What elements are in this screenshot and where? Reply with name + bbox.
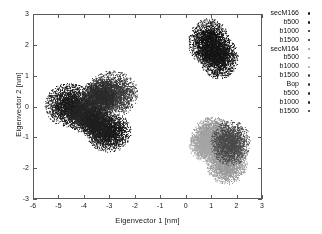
figure-canvas: -6-5-4-3-2-10123 -3-2-10123 Eigenvector … <box>0 0 322 234</box>
x-tick-label: 2 <box>226 202 248 210</box>
legend-item-label: b500 <box>283 53 302 62</box>
y-tick-mark <box>33 76 37 77</box>
legend-marker-cell <box>302 80 320 89</box>
y-tick-mark <box>258 137 262 138</box>
legend-item-label: b500 <box>283 18 302 27</box>
y-tick-mark <box>33 168 37 169</box>
x-tick-label: -4 <box>73 202 95 210</box>
x-tick-label: 1 <box>200 202 222 210</box>
legend-item[interactable]: secM164 <box>258 45 320 54</box>
legend-marker-cell <box>302 45 320 54</box>
legend-marker-dot-icon <box>308 48 310 50</box>
scatter-data-layer <box>34 15 261 198</box>
y-tick-label: 3 <box>7 10 29 18</box>
y-axis-title: Eigenvector 2 [nm] <box>14 45 23 165</box>
x-tick-label: -2 <box>124 202 146 210</box>
x-tick-mark <box>211 14 212 18</box>
x-tick-mark <box>186 195 187 199</box>
y-tick-mark <box>258 199 262 200</box>
legend-item-label: secM166 <box>271 9 302 18</box>
x-tick-mark <box>135 14 136 18</box>
y-tick-mark <box>33 45 37 46</box>
legend-item-label: b1500 <box>280 71 302 80</box>
legend-marker-dot-icon <box>308 66 310 68</box>
y-tick-mark <box>33 107 37 108</box>
plot-axes-area <box>33 14 262 199</box>
x-tick-mark <box>262 195 263 199</box>
x-tick-label: -6 <box>22 202 44 210</box>
y-tick-label: -3 <box>7 195 29 203</box>
legend-marker-cell <box>302 9 320 18</box>
x-tick-label: 0 <box>175 202 197 210</box>
x-axis-title: Eigenvector 1 [nm] <box>33 216 262 225</box>
legend: secM166b500b1000b1500secM164b500b1000b15… <box>258 9 320 116</box>
legend-item[interactable]: b1000 <box>258 62 320 71</box>
legend-marker-dot-icon <box>308 74 310 76</box>
x-tick-mark <box>237 14 238 18</box>
legend-marker-cell <box>302 62 320 71</box>
legend-marker-dot-icon <box>308 92 310 94</box>
legend-marker-dot-icon <box>308 83 310 85</box>
legend-marker-cell <box>302 53 320 62</box>
legend-marker-cell <box>302 18 320 27</box>
legend-marker-dot-icon <box>308 39 310 41</box>
x-tick-mark <box>135 195 136 199</box>
x-tick-mark <box>109 195 110 199</box>
legend-item-label: b1000 <box>280 98 302 107</box>
x-tick-mark <box>237 195 238 199</box>
x-tick-mark <box>211 195 212 199</box>
legend-item-label: secM164 <box>271 45 302 54</box>
x-tick-mark <box>160 195 161 199</box>
y-tick-mark <box>33 199 37 200</box>
legend-marker-cell <box>302 27 320 36</box>
legend-item[interactable]: b500 <box>258 18 320 27</box>
legend-marker-dot-icon <box>308 101 310 103</box>
x-tick-label: -3 <box>98 202 120 210</box>
legend-item[interactable]: b1500 <box>258 71 320 80</box>
x-tick-mark <box>109 14 110 18</box>
x-tick-mark <box>58 14 59 18</box>
legend-marker-dot-icon <box>308 30 310 32</box>
legend-marker-cell <box>302 36 320 45</box>
legend-marker-cell <box>302 107 320 116</box>
x-tick-mark <box>58 195 59 199</box>
legend-item-label: b1500 <box>280 107 302 116</box>
y-tick-mark <box>258 168 262 169</box>
legend-marker-dot-icon <box>308 21 310 23</box>
legend-item[interactable]: secM166 <box>258 9 320 18</box>
y-tick-label: -2 <box>7 164 29 172</box>
legend-item[interactable]: b500 <box>258 53 320 62</box>
legend-item-label: b1000 <box>280 62 302 71</box>
y-tick-mark <box>33 14 37 15</box>
legend-marker-dot-icon <box>308 110 310 112</box>
legend-item-label: b500 <box>283 89 302 98</box>
legend-item[interactable]: b1500 <box>258 36 320 45</box>
x-tick-mark <box>84 195 85 199</box>
x-tick-mark <box>186 14 187 18</box>
legend-marker-cell <box>302 98 320 107</box>
legend-item[interactable]: Bop <box>258 80 320 89</box>
legend-item-label: b1000 <box>280 27 302 36</box>
legend-marker-dot-icon <box>308 57 310 59</box>
x-tick-mark <box>84 14 85 18</box>
legend-item-label: b1500 <box>280 36 302 45</box>
y-tick-mark <box>33 137 37 138</box>
legend-marker-cell <box>302 71 320 80</box>
legend-item[interactable]: b1500 <box>258 107 320 116</box>
x-tick-label: -5 <box>47 202 69 210</box>
x-tick-mark <box>160 14 161 18</box>
legend-item[interactable]: b500 <box>258 89 320 98</box>
x-tick-label: 3 <box>251 202 273 210</box>
legend-marker-cell <box>302 89 320 98</box>
legend-marker-dot-icon <box>308 12 310 14</box>
x-tick-label: -1 <box>149 202 171 210</box>
legend-item[interactable]: b1000 <box>258 27 320 36</box>
legend-item-label: Bop <box>287 80 302 89</box>
legend-item[interactable]: b1000 <box>258 98 320 107</box>
